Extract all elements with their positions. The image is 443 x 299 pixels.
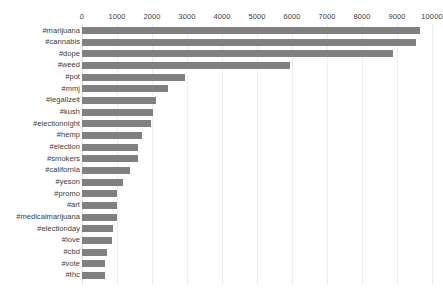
bar — [82, 144, 138, 151]
gridline — [292, 24, 293, 285]
bar — [82, 202, 117, 209]
bar — [82, 97, 156, 104]
y-axis-category-label: #legalizeit — [0, 96, 80, 103]
x-axis-tick-label: 7000 — [318, 12, 335, 21]
y-axis-category-label: #promo — [0, 190, 80, 197]
y-axis-category-label: #art — [0, 201, 80, 208]
y-axis-category-label: #dope — [0, 50, 80, 57]
bar — [82, 62, 290, 69]
x-axis-tick-label: 1000 — [108, 12, 125, 21]
x-axis-tick-label: 4000 — [213, 12, 230, 21]
x-axis-tick-label: 2000 — [143, 12, 160, 21]
x-axis-tick-labels: 0100020003000400050006000700080009000100… — [0, 12, 442, 24]
y-axis-category-label: #mmj — [0, 85, 80, 92]
bar — [82, 225, 113, 232]
bar — [82, 249, 107, 256]
bar — [82, 179, 123, 186]
bar — [82, 155, 138, 162]
x-axis-tick-label: 10000 — [421, 12, 442, 21]
y-axis-category-label: #thc — [0, 271, 80, 278]
y-axis-category-label: #weed — [0, 61, 80, 68]
y-axis-category-label: #pot — [0, 73, 80, 80]
x-axis-tick-label: 6000 — [283, 12, 300, 21]
y-axis-category-label: #california — [0, 166, 80, 173]
y-axis-category-label: #cbd — [0, 248, 80, 255]
bar — [82, 27, 420, 34]
y-axis-category-label: #vote — [0, 260, 80, 267]
bar — [82, 237, 112, 244]
y-axis-category-label: #cannabis — [0, 38, 80, 45]
x-axis-tick-label: 0 — [80, 12, 84, 21]
y-axis-category-label: #medicalmarijuana — [0, 213, 80, 220]
y-axis-category-label: #electionnight — [0, 120, 80, 127]
y-axis-category-label: #yeson — [0, 178, 80, 185]
x-axis-tick-label: 9000 — [388, 12, 405, 21]
y-axis-category-label: #kush — [0, 108, 80, 115]
y-axis-category-label: #smokers — [0, 155, 80, 162]
gridline — [432, 24, 433, 285]
y-axis-category-label: #electionday — [0, 225, 80, 232]
x-axis-tick-label: 8000 — [353, 12, 370, 21]
bar — [82, 214, 117, 221]
bar — [82, 109, 153, 116]
bar — [82, 50, 393, 57]
x-axis-tick-label: 3000 — [178, 12, 195, 21]
bar — [82, 167, 130, 174]
gridline — [327, 24, 328, 285]
bar — [82, 260, 105, 267]
plot-area — [82, 24, 432, 285]
bar — [82, 132, 142, 139]
bar — [82, 74, 185, 81]
gridline — [397, 24, 398, 285]
x-axis-tick-label: 5000 — [248, 12, 265, 21]
bar — [82, 39, 416, 46]
y-axis-category-label: #love — [0, 236, 80, 243]
y-axis-category-label: #marijuana — [0, 27, 80, 34]
bar — [82, 85, 168, 92]
y-axis-category-label: #hemp — [0, 131, 80, 138]
y-axis-category-label: #election — [0, 143, 80, 150]
bar — [82, 120, 151, 127]
bar — [82, 190, 117, 197]
gridline — [362, 24, 363, 285]
bar — [82, 272, 105, 279]
